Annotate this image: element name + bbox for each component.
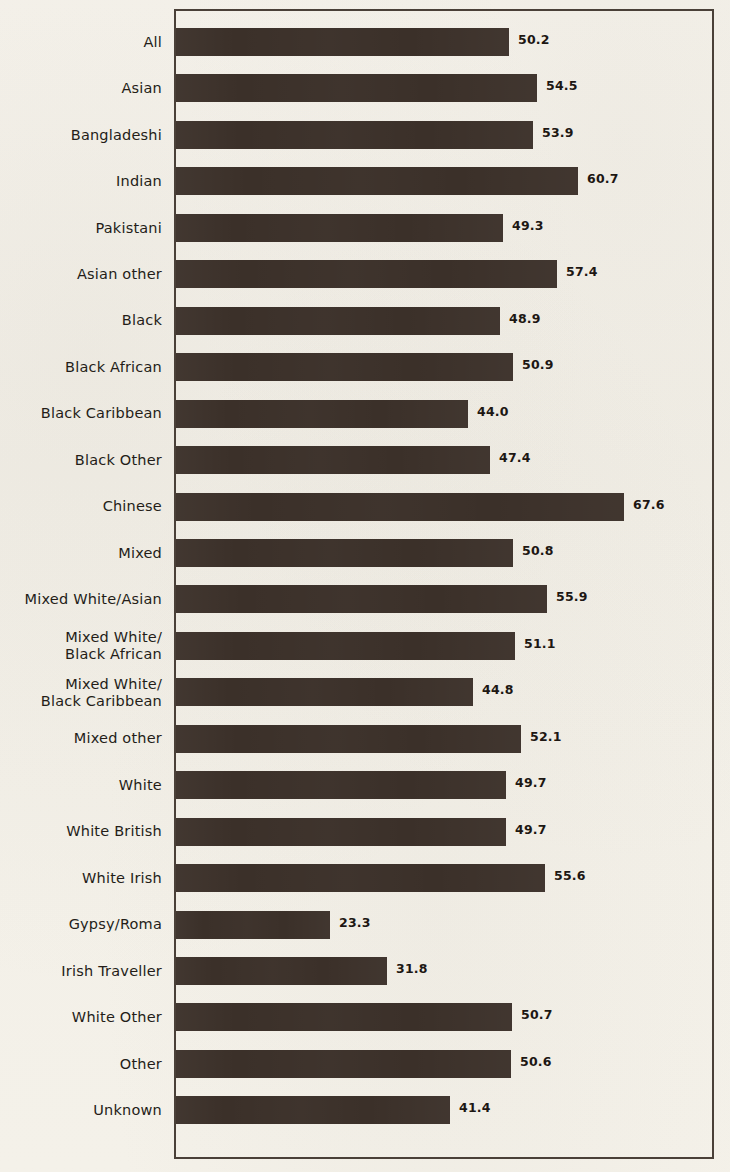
bar (176, 74, 537, 102)
bar-row: White British49.7 (0, 809, 730, 855)
bar-value-label: 55.6 (554, 868, 586, 883)
bar-row: Indian60.7 (0, 158, 730, 204)
bar (176, 911, 330, 939)
bar (176, 864, 545, 892)
bar (176, 957, 387, 985)
category-label: Pakistani (0, 205, 162, 251)
category-label: Irish Traveller (0, 948, 162, 994)
bar-value-label: 50.9 (522, 357, 554, 372)
bar-value-label: 49.7 (515, 822, 547, 837)
bar (176, 121, 533, 149)
bar-rows: All50.2Asian54.5Bangladeshi53.9Indian60.… (0, 0, 730, 1172)
category-label: Mixed other (0, 716, 162, 762)
bar (176, 1003, 512, 1031)
bar-row: Unknown41.4 (0, 1087, 730, 1133)
bar (176, 167, 578, 195)
bar-row: Mixed White/ Black Caribbean44.8 (0, 669, 730, 715)
bar-value-label: 52.1 (530, 729, 562, 744)
bar-value-label: 60.7 (587, 171, 619, 186)
bar (176, 725, 521, 753)
category-label: Unknown (0, 1087, 162, 1133)
bar-value-label: 50.7 (521, 1007, 553, 1022)
bar (176, 1050, 511, 1078)
bar-row: White49.7 (0, 762, 730, 808)
bar (176, 493, 624, 521)
bar-value-label: 55.9 (556, 589, 588, 604)
category-label: Black (0, 298, 162, 344)
bar-row: Mixed other52.1 (0, 716, 730, 762)
bar-value-label: 57.4 (566, 264, 598, 279)
bar-row: Black Other47.4 (0, 437, 730, 483)
category-label: White Other (0, 994, 162, 1040)
bar-value-label: 67.6 (633, 497, 665, 512)
category-label: White British (0, 809, 162, 855)
bar-row: Asian54.5 (0, 65, 730, 111)
bar-value-label: 44.8 (482, 682, 514, 697)
bar-row: Pakistani49.3 (0, 205, 730, 251)
category-label: White Irish (0, 855, 162, 901)
bar-row: Black48.9 (0, 298, 730, 344)
bar-value-label: 53.9 (542, 125, 574, 140)
category-label: Gypsy/Roma (0, 902, 162, 948)
bar-row: Mixed White/Asian55.9 (0, 576, 730, 622)
bar-row: Irish Traveller31.8 (0, 948, 730, 994)
category-label: Other (0, 1041, 162, 1087)
bar (176, 678, 473, 706)
bar (176, 585, 547, 613)
bar (176, 446, 490, 474)
bar (176, 771, 506, 799)
category-label: Mixed White/Asian (0, 576, 162, 622)
bar-value-label: 49.7 (515, 775, 547, 790)
category-label: All (0, 19, 162, 65)
bar-value-label: 49.3 (512, 218, 544, 233)
bar-row: Bangladeshi53.9 (0, 112, 730, 158)
bar-value-label: 50.6 (520, 1054, 552, 1069)
bar-row: Gypsy/Roma23.3 (0, 902, 730, 948)
category-label: Asian (0, 65, 162, 111)
bar-row: All50.2 (0, 19, 730, 65)
bar-row: Asian other57.4 (0, 251, 730, 297)
category-label: Mixed (0, 530, 162, 576)
category-label: Bangladeshi (0, 112, 162, 158)
bar-value-label: 23.3 (339, 915, 371, 930)
bar (176, 307, 500, 335)
bar (176, 28, 509, 56)
bar (176, 214, 503, 242)
bar (176, 1096, 450, 1124)
category-label: Black Caribbean (0, 391, 162, 437)
category-label: Indian (0, 158, 162, 204)
bar-row: Chinese67.6 (0, 484, 730, 530)
bar (176, 818, 506, 846)
bar (176, 539, 513, 567)
category-label: Mixed White/ Black Caribbean (0, 669, 162, 715)
bar-row: Black Caribbean44.0 (0, 391, 730, 437)
bar-value-label: 50.8 (522, 543, 554, 558)
bar-row: Mixed White/ Black African51.1 (0, 623, 730, 669)
bar-value-label: 48.9 (509, 311, 541, 326)
bar-row: Mixed50.8 (0, 530, 730, 576)
bar (176, 400, 468, 428)
bar-value-label: 44.0 (477, 404, 509, 419)
bar-value-label: 47.4 (499, 450, 531, 465)
bar-row: White Irish55.6 (0, 855, 730, 901)
bar-row: Black African50.9 (0, 344, 730, 390)
bar-row: Other50.6 (0, 1041, 730, 1087)
category-label: Mixed White/ Black African (0, 623, 162, 669)
bar-row: White Other50.7 (0, 994, 730, 1040)
bar (176, 260, 557, 288)
category-label: Black Other (0, 437, 162, 483)
category-label: Chinese (0, 484, 162, 530)
bar-value-label: 41.4 (459, 1100, 491, 1115)
category-label: Black African (0, 344, 162, 390)
bar (176, 353, 513, 381)
bar (176, 632, 515, 660)
bar-value-label: 50.2 (518, 32, 550, 47)
bar-value-label: 31.8 (396, 961, 428, 976)
bar-value-label: 51.1 (524, 636, 556, 651)
chart-page: All50.2Asian54.5Bangladeshi53.9Indian60.… (0, 0, 730, 1172)
category-label: Asian other (0, 251, 162, 297)
category-label: White (0, 762, 162, 808)
bar-value-label: 54.5 (546, 78, 578, 93)
